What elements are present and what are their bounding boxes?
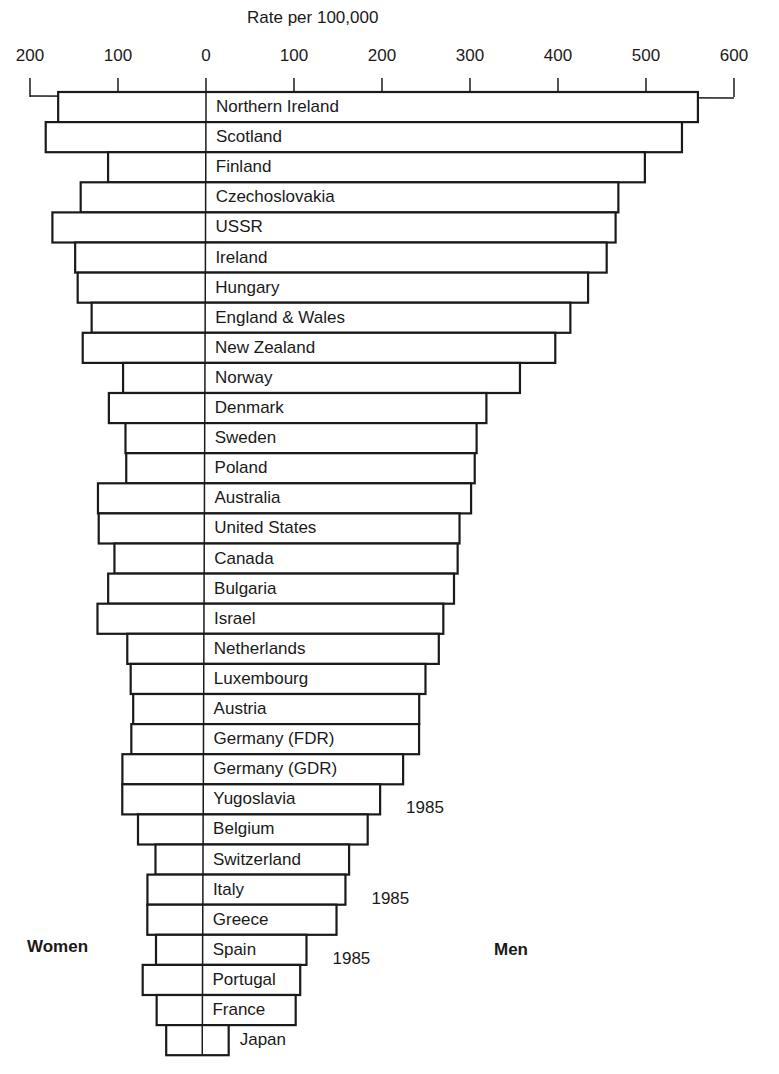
country-label: Italy bbox=[213, 880, 244, 900]
bar-row bbox=[81, 182, 619, 212]
country-label: Luxembourg bbox=[214, 669, 309, 689]
country-label: Australia bbox=[214, 488, 280, 508]
tick-label: 300 bbox=[456, 46, 484, 66]
bar-row bbox=[147, 875, 345, 905]
country-label: Bulgaria bbox=[214, 579, 276, 599]
bar-row bbox=[98, 483, 471, 513]
year-annotation: 1985 bbox=[406, 798, 444, 818]
country-label: England & Wales bbox=[215, 308, 345, 328]
bar-row bbox=[133, 694, 419, 724]
country-label: Greece bbox=[213, 910, 269, 930]
women-side-label: Women bbox=[27, 937, 88, 957]
country-label: Czechoslovakia bbox=[216, 187, 335, 207]
tick-label: 200 bbox=[368, 46, 396, 66]
bar-row bbox=[46, 122, 682, 152]
bar-row bbox=[83, 333, 556, 363]
country-label: France bbox=[212, 1000, 265, 1020]
bar-row bbox=[78, 273, 588, 303]
bar-row bbox=[75, 243, 607, 273]
country-label: Northern Ireland bbox=[216, 97, 339, 117]
tick-label: 600 bbox=[720, 46, 748, 66]
country-label: Denmark bbox=[215, 398, 284, 418]
tick-label: 500 bbox=[632, 46, 660, 66]
bar-row bbox=[97, 604, 443, 634]
country-label: Sweden bbox=[215, 428, 276, 448]
bar-row bbox=[109, 393, 487, 423]
country-label: Austria bbox=[214, 699, 267, 719]
axis-title: Rate per 100,000 bbox=[247, 8, 378, 28]
country-label: Netherlands bbox=[214, 639, 306, 659]
bar-row bbox=[114, 544, 457, 574]
country-label: Portugal bbox=[213, 970, 276, 990]
men-side-label: Men bbox=[494, 940, 528, 960]
year-annotation: 1985 bbox=[332, 949, 370, 969]
country-label: Switzerland bbox=[213, 850, 301, 870]
country-label: Yugoslavia bbox=[213, 789, 295, 809]
bar-row bbox=[108, 574, 454, 604]
tick-label: 0 bbox=[201, 46, 210, 66]
country-label: Norway bbox=[215, 368, 273, 388]
tick-label: 400 bbox=[544, 46, 572, 66]
bar-row bbox=[108, 152, 645, 182]
country-label: Japan bbox=[240, 1030, 286, 1050]
country-label: New Zealand bbox=[215, 338, 315, 358]
bar-row bbox=[52, 212, 615, 242]
country-label: Belgium bbox=[213, 819, 274, 839]
bar-row bbox=[166, 1025, 228, 1055]
tick-label: 100 bbox=[104, 46, 132, 66]
country-label: Canada bbox=[214, 549, 274, 569]
country-label: Spain bbox=[213, 940, 256, 960]
country-label: Scotland bbox=[216, 127, 282, 147]
country-label: Hungary bbox=[215, 278, 279, 298]
bar-row bbox=[126, 453, 474, 483]
bar-row bbox=[123, 363, 520, 393]
country-label: USSR bbox=[216, 217, 263, 237]
country-label: United States bbox=[214, 518, 316, 538]
country-label: Israel bbox=[214, 609, 256, 629]
country-label: Poland bbox=[215, 458, 268, 478]
country-label: Germany (GDR) bbox=[213, 759, 337, 779]
year-annotation: 1985 bbox=[371, 889, 409, 909]
country-label: Ireland bbox=[215, 248, 267, 268]
mortality-rate-chart bbox=[0, 0, 779, 1074]
country-label: Finland bbox=[216, 157, 272, 177]
country-label: Germany (FDR) bbox=[213, 729, 334, 749]
bar-row bbox=[125, 423, 476, 453]
bar-row bbox=[58, 92, 698, 122]
tick-label: 200 bbox=[16, 46, 44, 66]
tick-label: 100 bbox=[280, 46, 308, 66]
